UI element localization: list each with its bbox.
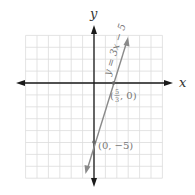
coordinate-plane: x y y = 3x − 5 ( 5 3 , 0) (0, −5): [0, 0, 195, 195]
svg-text:3: 3: [115, 96, 119, 104]
y-intercept-point: [92, 140, 96, 144]
y-axis-up-arrow-icon: [91, 25, 97, 34]
svg-text:, 0): , 0): [120, 90, 137, 101]
x-intercept-label: ( 5 3 , 0): [110, 88, 137, 104]
x-axis-label: x: [179, 75, 187, 90]
line-down-arrow-icon: [85, 165, 91, 174]
svg-text:(: (: [110, 90, 114, 101]
x-intercept-point: [112, 81, 116, 85]
line-up-arrow-icon: [124, 37, 130, 47]
y-intercept-label: (0, −5): [98, 140, 133, 151]
y-axis-down-arrow-icon: [91, 178, 97, 187]
x-axis-left-arrow-icon: [16, 80, 25, 86]
y-axis: [91, 25, 97, 187]
y-axis-label: y: [89, 6, 98, 21]
x-axis-right-arrow-icon: [164, 80, 173, 86]
